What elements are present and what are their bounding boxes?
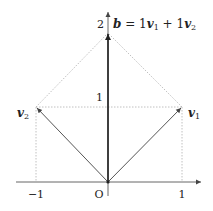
origin-label: O: [94, 188, 103, 201]
b-equation: b = 1v1 + 1v2: [113, 17, 196, 32]
v2-label: v2: [17, 106, 29, 121]
v1-label: v1: [188, 106, 200, 121]
y-tick-1: 1: [96, 91, 103, 104]
x-tick-1: 1: [179, 188, 186, 201]
vector-v1: [108, 108, 181, 182]
guide-v1-to-b: [108, 33, 182, 107]
origin-point: [106, 180, 109, 183]
y-tick-2: 2: [97, 18, 104, 31]
dotted-guides: [36, 33, 182, 182]
vector-v2: [37, 108, 108, 182]
vector-diagram: −1 1 O 1 2 v2 v1 b = 1v1 + 1v2: [0, 0, 213, 211]
x-tick-neg1: −1: [28, 188, 44, 201]
